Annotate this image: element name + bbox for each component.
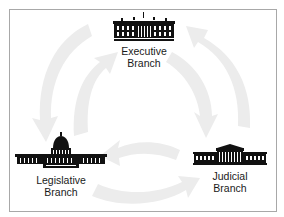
white-house-icon — [111, 12, 177, 45]
executive-label: Executive Branch — [104, 45, 184, 69]
executive-label-line2: Branch — [104, 57, 184, 69]
judicial-label: Judicial Branch — [190, 170, 270, 194]
supreme-court-icon — [191, 144, 269, 166]
arrow-judicial-to-legislative — [100, 140, 180, 166]
legislative-label: Legislative Branch — [12, 174, 110, 198]
legislative-label-line2: Branch — [12, 186, 110, 198]
executive-label-line1: Executive — [104, 45, 184, 57]
node-legislative: Legislative Branch — [12, 132, 110, 198]
judicial-label-line2: Branch — [190, 182, 270, 194]
capitol-building-icon — [13, 132, 109, 170]
node-executive: Executive Branch — [104, 12, 184, 69]
node-judicial: Judicial Branch — [190, 144, 270, 194]
judicial-label-line1: Judicial — [190, 170, 270, 182]
legislative-label-line1: Legislative — [12, 174, 110, 186]
